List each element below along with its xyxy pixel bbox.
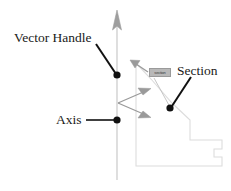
- section-top-arrow[interactable]: [130, 60, 148, 72]
- diagram-canvas: section Vector Handle Axis Section: [0, 0, 231, 191]
- diagram-vector-graphics: [0, 0, 231, 191]
- section-label: Section: [177, 64, 218, 78]
- section-tag-leader-line: [154, 78, 170, 107]
- vector-handle-arrows[interactable]: [118, 88, 151, 118]
- section-tag-box[interactable]: section: [149, 68, 171, 77]
- section-outline-shape[interactable]: [136, 63, 222, 166]
- section-tag-label: section: [154, 71, 165, 75]
- vector-handle-leader-line: [96, 44, 116, 74]
- vector-handle-label: Vector Handle: [14, 31, 92, 45]
- section-dot[interactable]: [166, 104, 173, 111]
- vector-handle-dot[interactable]: [113, 71, 120, 78]
- section-leader-line: [172, 77, 191, 106]
- axis-label: Axis: [56, 113, 82, 127]
- section-top-arrow-head: [130, 60, 140, 68]
- axis-dot[interactable]: [113, 116, 120, 123]
